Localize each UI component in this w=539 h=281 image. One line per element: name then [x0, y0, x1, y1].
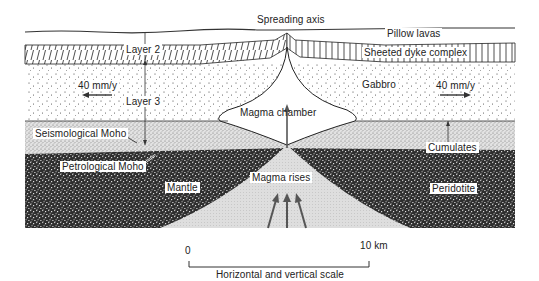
layer-3-label: Layer 3	[124, 96, 162, 107]
cross-section-drawing	[0, 0, 539, 281]
gabbro-label: Gabbro	[360, 79, 398, 90]
scale-start-label: 0	[185, 245, 191, 256]
pillow-lavas-label: Pillow lavas	[385, 28, 442, 39]
scale-bar	[189, 261, 369, 267]
spreading-rate-right-label: 40 mm/y	[434, 80, 477, 91]
spreading-axis-label: Spreading axis	[257, 14, 325, 25]
cumulates-label: Cumulates	[426, 142, 479, 153]
magma-rises-label: Magma rises	[250, 172, 312, 183]
spreading-rate-left-label: 40 mm/y	[76, 80, 119, 91]
scale-caption: Horizontal and vertical scale	[216, 269, 344, 280]
mantle-label: Mantle	[165, 182, 200, 193]
layer-2-label: Layer 2	[124, 44, 162, 55]
magma-chamber-label: Magma chamber	[240, 107, 316, 118]
peridotite-label: Peridotite	[430, 183, 477, 194]
seismological-moho-label: Seismological Moho	[33, 128, 128, 139]
ophiolite-cross-section: Spreading axis Pillow lavas Sheeted dyke…	[0, 0, 539, 281]
sheeted-dyke-label: Sheeted dyke complex	[362, 47, 469, 58]
scale-end-label: 10 km	[360, 240, 388, 251]
petrological-moho-label: Petrological Moho	[60, 161, 146, 172]
